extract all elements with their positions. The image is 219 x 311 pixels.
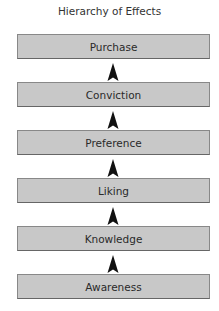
- stage-conviction: Conviction: [17, 82, 210, 107]
- stage-awareness: Awareness: [17, 274, 210, 299]
- stage-label: Knowledge: [85, 233, 143, 245]
- stage-label: Awareness: [85, 281, 141, 293]
- stage-label: Preference: [85, 137, 141, 149]
- stage-liking: Liking: [17, 178, 210, 203]
- stage-knowledge: Knowledge: [17, 226, 210, 251]
- stage-label: Liking: [98, 185, 129, 197]
- stage-preference: Preference: [17, 130, 210, 155]
- arrow-up-icon: [107, 63, 119, 81]
- stage-purchase: Purchase: [17, 34, 210, 59]
- arrow-up-icon: [107, 255, 119, 273]
- arrow-up-icon: [107, 207, 119, 225]
- diagram-title: Hierarchy of Effects: [0, 5, 219, 17]
- arrow-up-icon: [107, 111, 119, 129]
- arrow-up-icon: [107, 159, 119, 177]
- stage-label: Conviction: [86, 89, 141, 101]
- stage-label: Purchase: [90, 41, 138, 53]
